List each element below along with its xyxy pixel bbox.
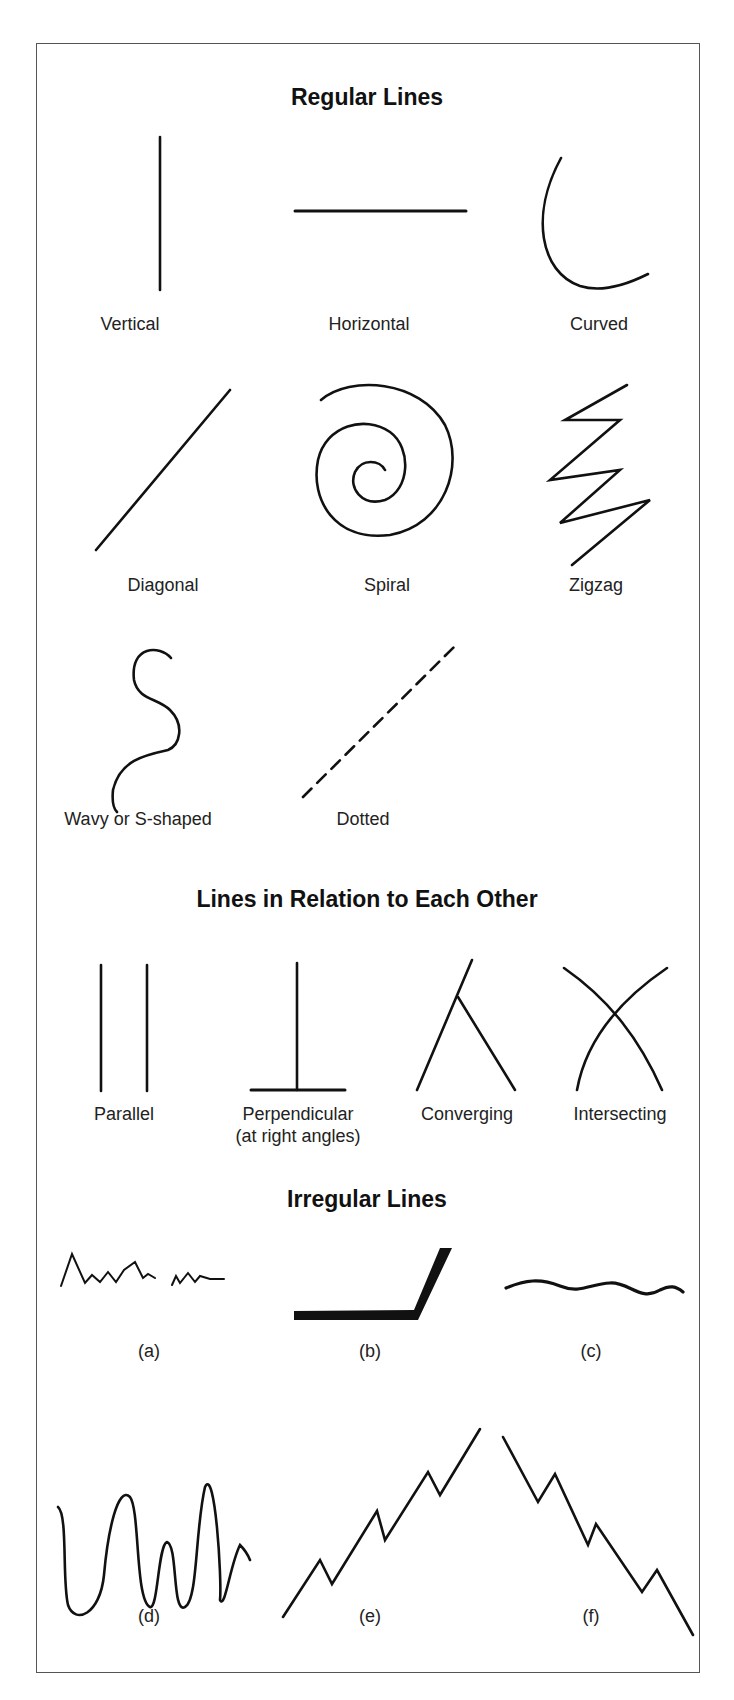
label-vertical: Vertical <box>100 313 159 335</box>
label-horizontal: Horizontal <box>328 313 409 335</box>
curved-line-shape <box>543 158 648 289</box>
label-converging: Converging <box>421 1103 513 1125</box>
label-f: (f) <box>583 1605 600 1627</box>
label-parallel: Parallel <box>94 1103 154 1125</box>
label-perpendicular-sub: (at right angles) <box>235 1125 360 1147</box>
diagonal-line-shape <box>96 390 230 550</box>
converging-line-right <box>458 997 515 1090</box>
irregular-a-shape <box>61 1254 224 1286</box>
irregular-c-shape <box>506 1281 683 1294</box>
label-spiral: Spiral <box>364 574 410 596</box>
converging-line-left <box>417 960 472 1090</box>
wavy-line-shape <box>113 650 180 812</box>
label-intersecting: Intersecting <box>573 1103 666 1125</box>
label-curved: Curved <box>570 313 628 335</box>
label-diagonal: Diagonal <box>127 574 198 596</box>
label-b: (b) <box>359 1340 381 1362</box>
label-c: (c) <box>581 1340 602 1362</box>
label-zigzag: Zigzag <box>569 574 623 596</box>
irregular-d-shape <box>58 1484 250 1615</box>
label-a: (a) <box>138 1340 160 1362</box>
heading-regular-lines: Regular Lines <box>0 84 734 111</box>
line-drawings <box>0 0 734 1700</box>
label-d: (d) <box>138 1605 160 1627</box>
heading-lines-in-relation: Lines in Relation to Each Other <box>0 886 734 913</box>
label-perpendicular: Perpendicular <box>242 1103 353 1125</box>
zigzag-line-shape <box>550 385 650 565</box>
irregular-e-shape <box>283 1429 480 1617</box>
heading-irregular-lines: Irregular Lines <box>0 1186 734 1213</box>
label-wavy: Wavy or S-shaped <box>64 808 211 830</box>
label-e: (e) <box>359 1605 381 1627</box>
dotted-line-shape <box>303 645 456 797</box>
intersecting-line-a <box>564 968 662 1090</box>
spiral-line-shape <box>317 385 453 536</box>
label-dotted: Dotted <box>336 808 389 830</box>
irregular-b-shape <box>294 1248 452 1320</box>
